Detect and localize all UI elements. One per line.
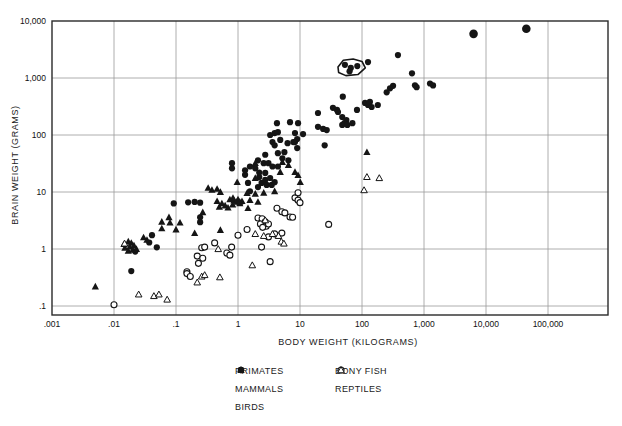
point-primates	[229, 160, 235, 166]
point-mammals	[149, 232, 155, 238]
x-tick-label: 10,000	[473, 319, 499, 329]
point-primates	[272, 142, 278, 148]
point-mammals	[414, 84, 420, 90]
point-reptiles	[376, 175, 383, 181]
point-primates	[275, 150, 281, 156]
point-mammals	[369, 104, 375, 110]
birds-marker-glyph	[237, 366, 244, 373]
point-bony-fish	[260, 224, 266, 230]
x-tick-label: 100	[355, 319, 369, 329]
legend-column-right: BONY FISHREPTILES	[335, 365, 397, 401]
point-birds	[158, 225, 165, 232]
point-mammals	[185, 199, 191, 205]
point-birds	[217, 226, 224, 233]
mammals-marker-icon	[289, 384, 301, 394]
point-mammals	[315, 110, 321, 116]
point-birds	[285, 161, 292, 168]
point-mammals	[154, 244, 160, 250]
point-bony-fish	[282, 210, 288, 216]
point-birds	[363, 148, 370, 155]
point-primates	[277, 137, 283, 143]
point-mammals	[409, 70, 415, 76]
point-mammals	[171, 200, 177, 206]
point-mammals	[365, 59, 371, 65]
point-primates	[342, 62, 348, 68]
point-mammals-large	[522, 24, 531, 33]
point-mammals	[354, 107, 360, 113]
reptiles-marker-glyph	[338, 367, 345, 373]
point-birds	[165, 214, 172, 221]
birds-marker-icon	[289, 402, 301, 412]
point-birds	[172, 226, 179, 233]
point-birds	[297, 178, 304, 185]
primates-marker-icon	[289, 366, 301, 376]
legend-label-reptiles: REPTILES	[335, 384, 382, 394]
point-bony-fish	[235, 232, 241, 238]
point-primates	[290, 139, 296, 145]
point-mammals	[197, 219, 203, 225]
point-mammals	[300, 131, 306, 137]
point-mammals	[324, 127, 330, 133]
legend-item-mammals: MAMMALS	[235, 383, 301, 394]
point-mammals	[128, 268, 134, 274]
point-reptiles	[249, 262, 256, 268]
point-mammals	[395, 52, 401, 58]
x-tick-label: 1,000	[413, 319, 435, 329]
y-axis-title: BRAIN WEIGHT (GRAMS)	[10, 105, 20, 224]
y-tick-label: 100	[32, 130, 46, 140]
point-reptiles	[156, 291, 163, 297]
point-birds	[213, 197, 220, 204]
point-birds	[234, 178, 241, 185]
legend-label-mammals: MAMMALS	[235, 384, 283, 394]
point-birds	[246, 196, 253, 203]
point-birds	[176, 219, 183, 226]
point-primates	[262, 152, 268, 158]
point-mammals	[390, 83, 396, 89]
point-bony-fish	[111, 302, 117, 308]
point-mammals	[292, 130, 298, 136]
scatter-figure: .001.01.11101001,00010,000100,00010,0001…	[0, 0, 622, 426]
point-primates	[281, 149, 287, 155]
y-tick-label: 1,000	[25, 73, 47, 83]
x-tick-label: .1	[172, 319, 179, 329]
y-tick-label: 10	[37, 187, 47, 197]
point-bony-fish	[202, 244, 208, 250]
point-bony-fish	[229, 244, 235, 250]
point-bony-fish	[212, 240, 218, 246]
point-mammals	[197, 200, 203, 206]
point-bony-fish	[297, 200, 303, 206]
point-birds	[291, 168, 298, 175]
point-primates	[247, 163, 253, 169]
point-bony-fish	[227, 252, 233, 258]
point-bony-fish	[195, 260, 201, 266]
point-birds	[199, 209, 206, 216]
point-birds	[271, 188, 278, 195]
y-tick-label: .1	[39, 301, 46, 311]
point-reptiles	[252, 231, 259, 237]
point-mammals	[262, 170, 268, 176]
point-reptiles	[135, 291, 142, 297]
x-tick-label: .01	[108, 319, 120, 329]
point-reptiles	[194, 279, 201, 285]
point-reptiles	[164, 296, 171, 302]
x-tick-label: .001	[44, 319, 61, 329]
point-primates	[256, 169, 262, 175]
x-tick-label: 1	[236, 319, 241, 329]
point-mammals	[192, 199, 198, 205]
point-birds	[254, 198, 261, 205]
legend: PRIMATESMAMMALSBIRDS BONY FISHREPTILES	[0, 365, 622, 420]
point-birds	[191, 229, 198, 236]
point-mammals	[255, 184, 261, 190]
point-reptiles	[217, 274, 224, 280]
point-bony-fish	[290, 214, 296, 220]
point-mammals	[269, 163, 275, 169]
legend-marker-canvas	[335, 365, 347, 375]
point-mammals	[287, 119, 293, 125]
point-primates	[354, 63, 360, 69]
point-mammals-large	[469, 30, 478, 39]
point-mammals	[274, 120, 280, 126]
legend-column-left: PRIMATESMAMMALSBIRDS	[235, 365, 301, 419]
y-tick-label: 10,000	[20, 16, 46, 26]
point-primates	[284, 140, 290, 146]
point-birds	[244, 204, 251, 211]
